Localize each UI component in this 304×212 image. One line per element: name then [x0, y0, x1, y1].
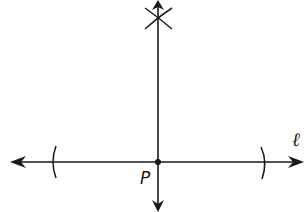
- point-p: [155, 159, 161, 165]
- perpendicular-line: [152, 0, 164, 212]
- construction-diagram: [0, 0, 304, 212]
- point-p-label: P: [140, 168, 150, 188]
- line-l-label: ℓ: [292, 128, 300, 151]
- arc-right: [261, 147, 265, 179]
